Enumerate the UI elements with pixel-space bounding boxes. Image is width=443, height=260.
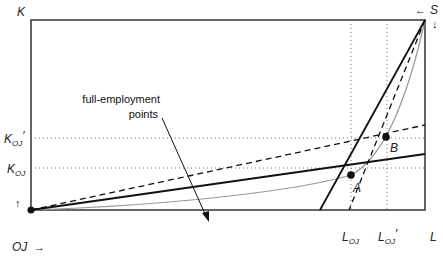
l-axis-label: L [430,230,437,244]
k-oj-prime-label: KOJ′ [4,129,25,148]
point-b-label: B [390,141,398,155]
origin-s-label: S [430,3,438,17]
k-axis-label: K [17,5,26,19]
origin-oj-label: OJ [12,240,28,254]
s-left-arrow-icon: ← [415,4,426,16]
origin-oj-point [28,207,35,214]
annotation-arrowhead [202,211,209,222]
edgeworth-box-diagram: K L ↑ OJ → ← S ↓ KOJ′ KOJ LOJ LOJ′ A B f… [0,0,443,260]
annotation-line1: full-employment [82,93,160,105]
l-oj-label: LOJ [342,230,360,246]
k-oj-label: KOJ [7,162,26,178]
oj-up-arrow-icon: ↑ [15,197,21,209]
point-a-label: A [352,181,361,195]
oj-right-arrow-icon: → [34,241,45,253]
annotation-line2: points [129,108,159,120]
s-ray-solid [320,20,425,210]
point-a [347,171,355,179]
l-oj-prime-label: LOJ′ [378,227,398,246]
oj-ray-solid [31,154,425,210]
s-down-arrow-icon: ↓ [432,18,438,30]
point-b [382,133,390,141]
